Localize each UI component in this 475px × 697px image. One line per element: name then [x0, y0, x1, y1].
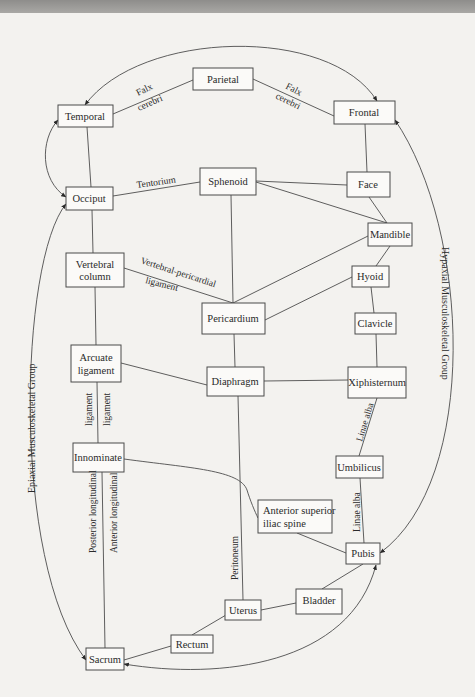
label-linae-alba-upper: Linae alba — [354, 401, 375, 443]
node-bladder: Bladder — [296, 589, 342, 614]
label-vertebral-pericardial-ligament: ligament — [145, 275, 180, 293]
svg-text:Pericardium: Pericardium — [207, 313, 258, 324]
label-ligament-right: ligament — [102, 392, 112, 426]
node-face: Face — [347, 172, 390, 197]
svg-text:Vertebral: Vertebral — [76, 259, 115, 270]
diagram-canvas: Parietal Temporal Frontal Occiput Spheno… — [0, 0, 475, 697]
node-anterior-superior-iliac-spine: Anterior superior iliac spine — [258, 500, 336, 533]
svg-text:Pubis: Pubis — [351, 548, 374, 559]
label-linae-alba-lower: Linae alba — [352, 491, 362, 532]
node-occiput: Occiput — [66, 187, 113, 210]
node-rectum: Rectum — [171, 635, 213, 653]
svg-text:ligament: ligament — [78, 365, 115, 376]
svg-text:Hyoid: Hyoid — [357, 271, 384, 282]
svg-text:Face: Face — [358, 179, 378, 190]
svg-text:Arcuate: Arcuate — [79, 352, 113, 363]
node-pericardium: Pericardium — [202, 303, 265, 334]
svg-text:Umbilicus: Umbilicus — [337, 462, 381, 473]
node-uterus: Uterus — [225, 600, 261, 620]
label-falx-left-1: Falx — [134, 81, 154, 98]
node-hyoid: Hyoid — [352, 266, 389, 287]
node-arcuate-ligament: Arcuate ligament — [71, 345, 121, 382]
node-frontal: Frontal — [334, 101, 395, 124]
svg-text:Uterus: Uterus — [229, 605, 257, 616]
label-anterior-longitudinal: Anterior longitudinal — [109, 472, 119, 553]
label-posterior-longitudinal: Posterior longitudinal — [88, 470, 98, 553]
node-mandible: Mandible — [368, 223, 412, 246]
svg-text:column: column — [79, 271, 111, 282]
label-epiaxial-group: Epiaxial Musculoskeletal Group — [26, 364, 37, 493]
svg-text:Clavicle: Clavicle — [358, 318, 393, 329]
svg-text:Anterior superior: Anterior superior — [263, 505, 336, 516]
label-hypaxial-group: Hypaxial Musculoskeletal Group — [440, 247, 451, 380]
svg-text:Diaphragm: Diaphragm — [211, 376, 258, 387]
node-clavicle: Clavicle — [355, 313, 396, 334]
node-innominate: Innominate — [73, 443, 124, 472]
svg-text:Sphenoid: Sphenoid — [208, 176, 248, 187]
node-parietal: Parietal — [193, 68, 253, 90]
svg-text:Occiput: Occiput — [72, 193, 105, 204]
node-temporal: Temporal — [58, 105, 113, 127]
node-sacrum: Sacrum — [86, 648, 124, 670]
svg-text:Innominate: Innominate — [74, 452, 122, 463]
svg-text:Xiphisternum: Xiphisternum — [348, 377, 406, 388]
svg-text:iliac spine: iliac spine — [263, 518, 306, 529]
svg-text:Temporal: Temporal — [65, 111, 105, 122]
node-diaphragm: Diaphragm — [207, 367, 264, 396]
label-peritoneum: Peritoneum — [230, 536, 240, 580]
node-pubis: Pubis — [346, 543, 380, 564]
label-ligament-left: ligament — [84, 392, 94, 426]
node-sphenoid: Sphenoid — [200, 168, 256, 195]
svg-text:Rectum: Rectum — [176, 639, 209, 650]
svg-text:Parietal: Parietal — [207, 74, 239, 85]
svg-text:Sacrum: Sacrum — [89, 654, 121, 665]
node-umbilicus: Umbilicus — [336, 456, 383, 478]
node-xiphisternum: Xiphisternum — [348, 367, 406, 398]
svg-text:Bladder: Bladder — [302, 595, 336, 606]
label-tentorium: Tentorium — [136, 175, 177, 190]
svg-text:Frontal: Frontal — [349, 107, 379, 118]
node-vertebral-column: Vertebral column — [66, 253, 124, 287]
svg-text:Mandible: Mandible — [370, 229, 411, 240]
